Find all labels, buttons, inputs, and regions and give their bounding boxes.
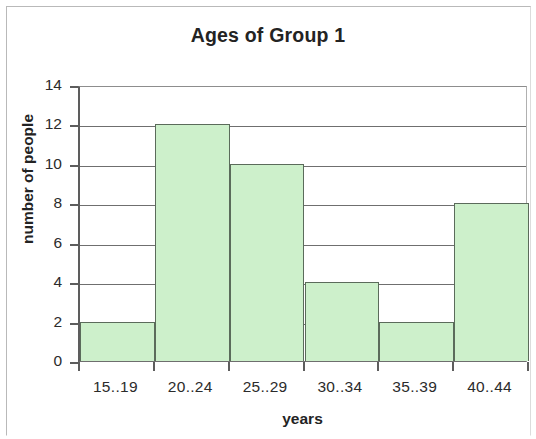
y-axis-tick	[70, 86, 78, 88]
x-axis-tick-label: 20..24	[147, 378, 233, 396]
y-axis-tick	[70, 244, 78, 246]
y-axis-tick	[70, 204, 78, 206]
x-axis-tick-label: 30..34	[297, 378, 383, 396]
y-axis-tick-label: 12	[18, 115, 62, 133]
x-axis-tick	[377, 362, 379, 371]
chart-screenshot: Ages of Group 1 number of people 0246810…	[0, 0, 536, 439]
bar-25--29	[230, 164, 305, 361]
y-axis-tick	[70, 283, 78, 285]
x-axis-tick-label: 40..44	[447, 378, 533, 396]
y-axis-tick-label: 0	[18, 352, 62, 370]
y-axis-tick-label: 2	[18, 313, 62, 331]
plot-area	[78, 86, 527, 362]
x-axis-tick	[452, 362, 454, 371]
chart-title: Ages of Group 1	[0, 24, 536, 47]
x-axis-tick-label: 15..19	[72, 378, 158, 396]
x-axis-tick	[78, 362, 80, 371]
bar-15--19	[80, 322, 155, 361]
y-axis-tick-label: 6	[18, 234, 62, 252]
x-axis-tick	[228, 362, 230, 371]
y-axis-tick-label: 4	[18, 273, 62, 291]
y-axis-tick	[70, 165, 78, 167]
y-axis-tick-label: 10	[18, 155, 62, 173]
bar-35--39	[379, 322, 454, 361]
bar-20--24	[155, 124, 230, 361]
bar-30--34	[305, 282, 380, 361]
y-axis-tick-label: 14	[18, 76, 62, 94]
x-axis-tick-label: 25..29	[222, 378, 308, 396]
x-axis-tick	[153, 362, 155, 371]
x-axis-tick-label: 35..39	[372, 378, 458, 396]
x-axis-title: years	[78, 410, 527, 428]
x-axis-tick	[527, 362, 529, 371]
y-axis-tick	[70, 362, 78, 364]
x-axis-tick	[303, 362, 305, 371]
bar-40--44	[454, 203, 529, 361]
y-axis-tick-label: 8	[18, 194, 62, 212]
y-axis-tick	[70, 125, 78, 127]
gridline	[80, 126, 526, 127]
y-axis-tick	[70, 323, 78, 325]
